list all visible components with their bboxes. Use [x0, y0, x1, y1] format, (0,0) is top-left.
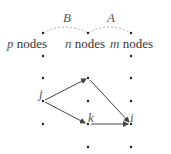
arc-A	[88, 27, 131, 33]
layer-graph	[0, 0, 171, 154]
node-label-i: i	[130, 111, 134, 124]
arc-B	[43, 27, 88, 33]
node-label-j: j	[39, 87, 43, 100]
edge-j-k	[45, 102, 85, 123]
arc-label-A: A	[107, 11, 115, 24]
edge-j-top	[45, 79, 86, 100]
group-label-n: n nodes	[65, 37, 105, 50]
node-label-k: k	[88, 111, 94, 124]
edge-top-i	[90, 80, 129, 122]
group-label-m: m nodes	[110, 37, 153, 50]
group-label-p: p nodes	[7, 37, 47, 50]
arc-label-B: B	[63, 11, 71, 24]
